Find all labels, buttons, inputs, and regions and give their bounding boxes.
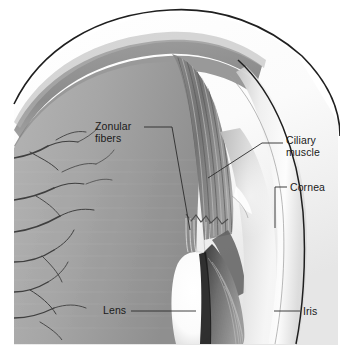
label-zonular-fibers: Zonular fibers [95, 121, 131, 144]
limbus-highlight [224, 154, 276, 238]
label-cornea: Cornea [290, 182, 325, 194]
label-lens: Lens [103, 305, 126, 317]
eye-cross-section-illustration [0, 0, 340, 353]
label-iris: Iris [303, 306, 317, 318]
eye-anatomy-figure: Zonular fibers Ciliary muscle Cornea Len… [0, 0, 340, 353]
label-ciliary-muscle: Ciliary muscle [286, 135, 320, 158]
